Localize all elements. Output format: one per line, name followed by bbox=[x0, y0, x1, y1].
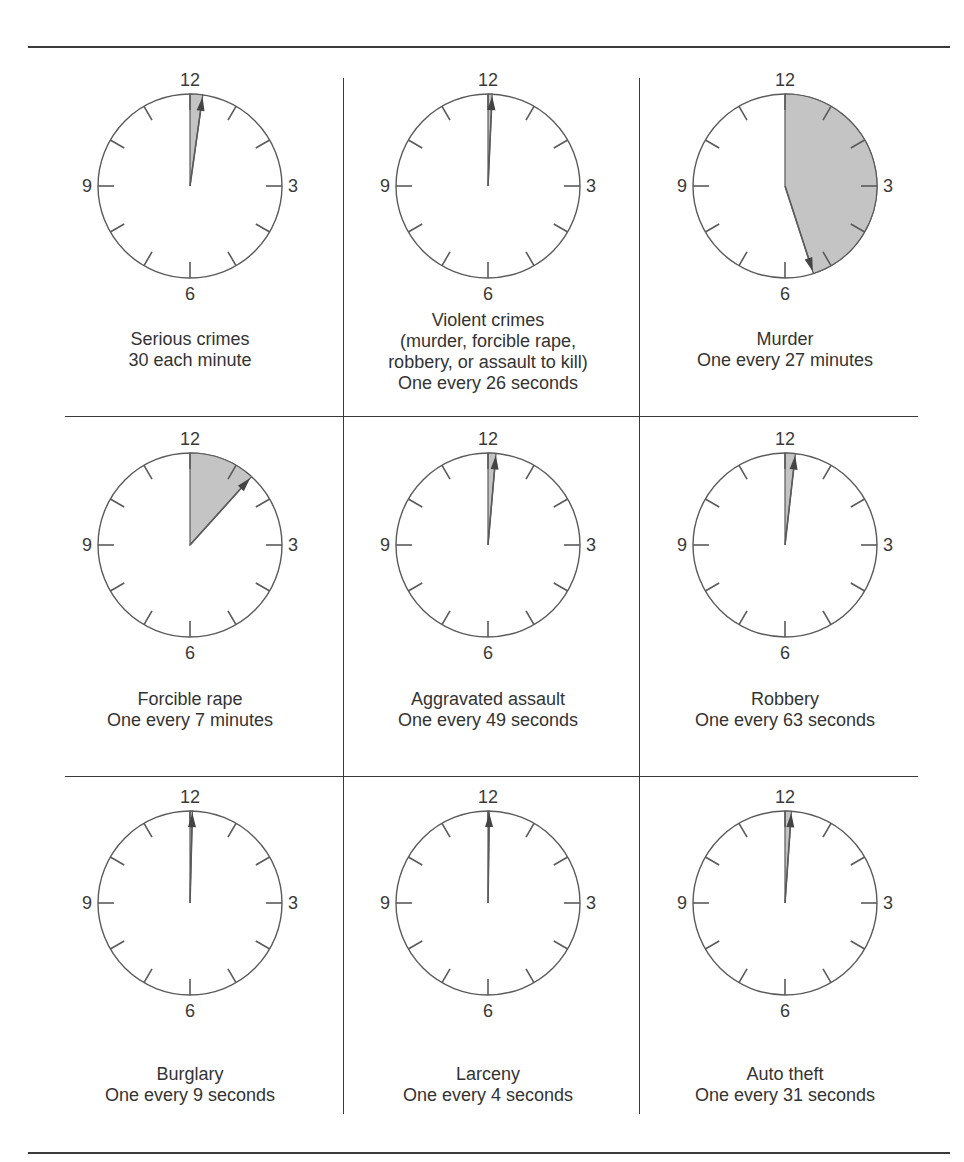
label-3: 3 bbox=[883, 893, 893, 913]
clock-face: 12693 bbox=[339, 0, 637, 1162]
crime-clock-figure: 12693 12693 12693 12693 12693 12693 1269… bbox=[0, 0, 964, 1162]
label-12: 12 bbox=[775, 787, 795, 807]
caption-line: One every 7 minutes bbox=[41, 710, 339, 731]
caption-murder: Murder One every 27 minutes bbox=[636, 329, 934, 371]
label-6: 6 bbox=[483, 1001, 493, 1021]
clock-face: 12693 bbox=[636, 0, 934, 1162]
label-6: 6 bbox=[780, 1001, 790, 1021]
caption-line: One every 27 minutes bbox=[636, 350, 934, 371]
label-3: 3 bbox=[288, 893, 298, 913]
caption-line: 30 each minute bbox=[41, 350, 339, 371]
caption-line: Robbery bbox=[636, 689, 934, 710]
caption-line: Murder bbox=[636, 329, 934, 350]
clock-face: 12693 bbox=[41, 0, 339, 1162]
caption-line: One every 4 seconds bbox=[339, 1085, 637, 1106]
caption-violent-crimes: Violent crimes (murder, forcible rape, r… bbox=[339, 310, 637, 394]
label-9: 9 bbox=[82, 893, 92, 913]
label-9: 9 bbox=[677, 893, 687, 913]
label-12: 12 bbox=[180, 787, 200, 807]
label-6: 6 bbox=[185, 1001, 195, 1021]
caption-line: One every 26 seconds bbox=[339, 373, 637, 394]
clock-hand bbox=[488, 827, 489, 903]
caption-line: One every 63 seconds bbox=[636, 710, 934, 731]
label-9: 9 bbox=[380, 893, 390, 913]
caption-burglary: Burglary One every 9 seconds bbox=[41, 1064, 339, 1106]
caption-line: One every 9 seconds bbox=[41, 1085, 339, 1106]
caption-line: Forcible rape bbox=[41, 689, 339, 710]
label-12: 12 bbox=[478, 787, 498, 807]
caption-serious-crimes: Serious crimes 30 each minute bbox=[41, 329, 339, 371]
caption-line: One every 31 seconds bbox=[636, 1085, 934, 1106]
caption-line: Violent crimes bbox=[339, 310, 637, 331]
caption-line: Burglary bbox=[41, 1064, 339, 1085]
caption-larceny: Larceny One every 4 seconds bbox=[339, 1064, 637, 1106]
caption-auto-theft: Auto theft One every 31 seconds bbox=[636, 1064, 934, 1106]
caption-line: One every 49 seconds bbox=[339, 710, 637, 731]
caption-forcible-rape: Forcible rape One every 7 minutes bbox=[41, 689, 339, 731]
caption-line: Serious crimes bbox=[41, 329, 339, 350]
caption-line: Larceny bbox=[339, 1064, 637, 1085]
caption-line: Aggravated assault bbox=[339, 689, 637, 710]
caption-aggravated-assault: Aggravated assault One every 49 seconds bbox=[339, 689, 637, 731]
caption-line: (murder, forcible rape, bbox=[339, 331, 637, 352]
caption-line: robbery, or assault to kill) bbox=[339, 352, 637, 373]
caption-robbery: Robbery One every 63 seconds bbox=[636, 689, 934, 731]
caption-line: Auto theft bbox=[636, 1064, 934, 1085]
label-3: 3 bbox=[586, 893, 596, 913]
